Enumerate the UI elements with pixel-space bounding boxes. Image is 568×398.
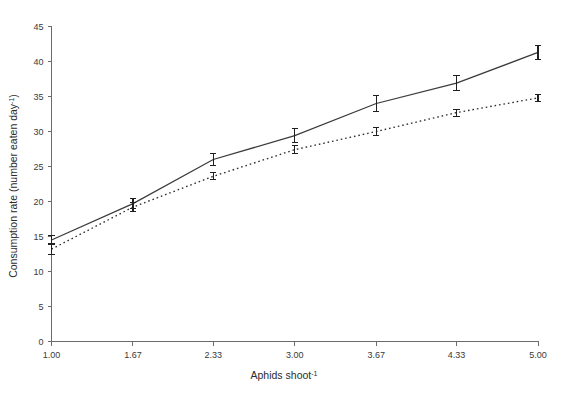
y-axis-tick-label: 5 [38, 302, 43, 312]
dotted-line-series-errorbar [210, 173, 216, 180]
solid-line-series-errorbar [210, 153, 216, 166]
y-axis-tick-label: 45 [33, 22, 43, 32]
solid-line-series-errorbar [292, 129, 298, 143]
x-axis: 1.001.672.333.003.674.335.00 [43, 342, 547, 360]
solid-line-series-errorbar [535, 45, 541, 59]
data-series-group [48, 45, 541, 254]
x-axis-tick-label: 3.67 [367, 350, 385, 360]
x-axis-tick-label: 5.00 [529, 350, 547, 360]
x-axis-tick-label: 1.67 [124, 350, 142, 360]
consumption-rate-line-chart: 051015202530354045 1.001.672.333.003.674… [0, 0, 568, 398]
y-axis-tick-label: 15 [33, 232, 43, 242]
y-axis-tick-label: 40 [33, 57, 43, 67]
y-axis: 051015202530354045 [33, 22, 51, 347]
x-axis-tick-label: 4.33 [448, 350, 466, 360]
x-axis-tick-label: 2.33 [204, 350, 222, 360]
dotted-line-series-line [52, 98, 539, 249]
x-axis-tick-label: 3.00 [286, 350, 304, 360]
dotted-line-series-errorbar [373, 127, 379, 135]
y-axis-tick-label: 35 [33, 92, 43, 102]
y-axis-tick-label: 0 [38, 337, 43, 347]
x-axis-tick-label: 1.00 [43, 350, 61, 360]
y-axis-title: Consumption rate (number eaten day-1) [7, 94, 19, 278]
x-axis-title: Aphids shoot-1 [251, 369, 318, 381]
figure-canvas: 051015202530354045 1.001.672.333.003.674… [0, 0, 568, 398]
dotted-line-series-errorbar [453, 109, 459, 116]
y-axis-tick-label: 20 [33, 197, 43, 207]
y-axis-tick-label: 10 [33, 267, 43, 277]
y-axis-tick-label: 25 [33, 162, 43, 172]
y-axis-tick-label: 30 [33, 127, 43, 137]
axis-titles-group: Aphids shoot-1Consumption rate (number e… [7, 94, 318, 381]
